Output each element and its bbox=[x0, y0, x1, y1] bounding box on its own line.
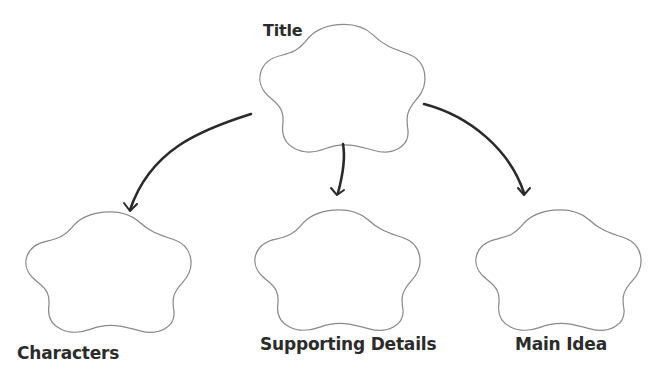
title-label: Title bbox=[263, 21, 302, 40]
main-idea-label: Main Idea bbox=[515, 334, 607, 354]
arrow-to-main-idea bbox=[424, 104, 524, 193]
characters-cloud bbox=[26, 212, 191, 332]
supporting-details-label: Supporting Details bbox=[260, 334, 436, 354]
characters-label: Characters bbox=[17, 343, 119, 363]
diagram-canvas bbox=[0, 0, 657, 370]
arrow-to-characters bbox=[130, 114, 251, 210]
arrow-to-supporting-details bbox=[338, 144, 344, 193]
main-idea-cloud bbox=[476, 210, 641, 330]
title-cloud bbox=[260, 24, 425, 152]
supporting-details-cloud bbox=[255, 210, 420, 330]
